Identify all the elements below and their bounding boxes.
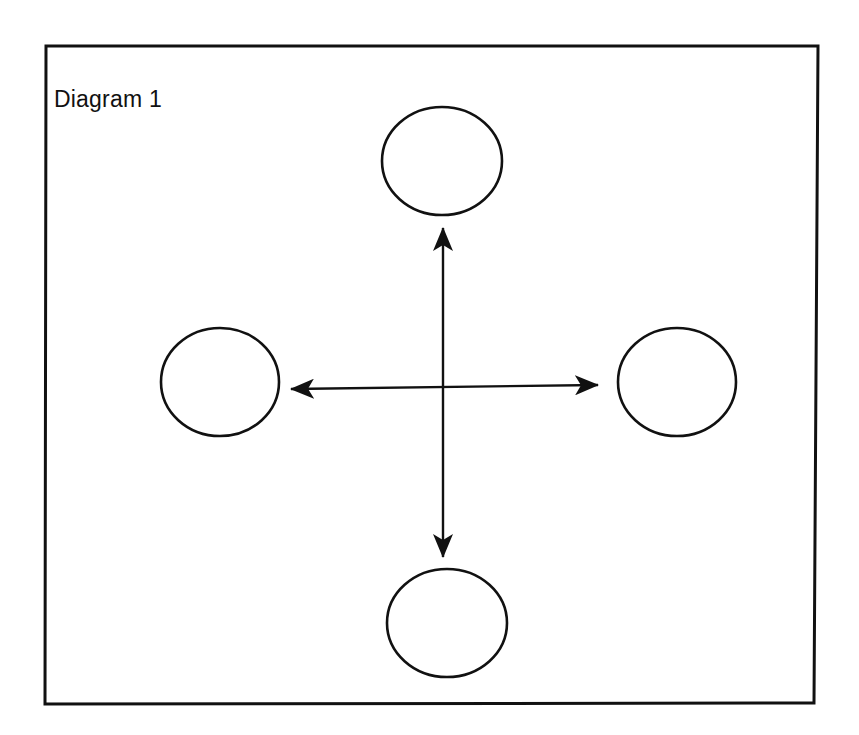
diagram-title: Diagram 1 bbox=[54, 88, 162, 111]
node-top-circle bbox=[382, 107, 502, 215]
node-left-circle bbox=[161, 328, 279, 436]
node-right-circle bbox=[618, 328, 736, 436]
node-bottom-circle bbox=[387, 569, 507, 677]
horizontal-double-arrow bbox=[291, 385, 598, 389]
